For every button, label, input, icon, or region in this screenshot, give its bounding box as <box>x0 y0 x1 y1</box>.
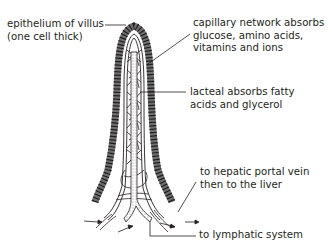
flow-arrows <box>84 220 199 232</box>
lacteal-label: lacteal absorbs fatty acids and glycerol <box>190 86 295 111</box>
epithelium-label: epithelium of villus (one cell thick) <box>7 18 104 43</box>
lymphatic-system-label: to lymphatic system <box>199 229 303 242</box>
capillary-network-label: capillary network absorbs glucose, amino… <box>193 17 324 55</box>
hepatic-portal-vein-label: to hepatic portal vein then to the liver <box>200 166 309 191</box>
